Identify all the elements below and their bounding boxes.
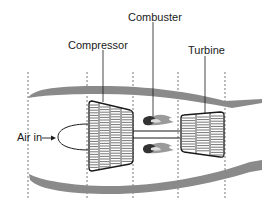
upper-casing [28,86,262,108]
combustor-flame-lower [143,143,174,154]
air-in-label: Air in [17,131,42,143]
shaft [133,131,180,138]
compressor-rotor [89,101,133,171]
combustor-flame-upper [143,115,174,126]
turbine-label: Turbine [188,44,225,56]
combuster-label: Combuster [128,11,182,23]
lower-casing [29,160,262,194]
compressor-label: Compressor [68,39,128,51]
air-in-arrow [42,136,56,141]
leader-lines [103,22,205,118]
turbine-rotor [181,112,224,157]
inlet-cone [58,124,88,150]
jet-engine-diagram [0,0,280,212]
